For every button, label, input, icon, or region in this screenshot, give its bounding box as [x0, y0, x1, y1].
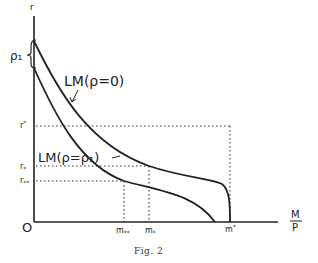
figure-caption: Fig. 2 [134, 246, 163, 256]
x-axis-label-denominator: P [292, 222, 298, 233]
m-double-star-sub-label: m** [116, 226, 130, 236]
lm-rho-rho1-label: LM(ρ=ρ₁) [38, 150, 99, 165]
m-star-sup-label: m* [225, 223, 236, 234]
rho1-label: ρ₁ [10, 49, 23, 63]
lm-rho-0-arrow [70, 90, 78, 102]
m-star-sub-label: m* [145, 226, 156, 236]
lm-rho-rho1-arrow [112, 156, 120, 158]
lm-rho-0-label: LM(ρ=0) [64, 73, 124, 89]
is-lm-diagram: ρ₁ LM(ρ=0) LM(ρ=ρ₁) r O M P r* r* r** m*… [0, 0, 318, 263]
r-star-sup-label: r* [20, 119, 26, 130]
origin-label: O [22, 220, 32, 235]
r-star-sub-label: r* [20, 162, 26, 172]
y-axis-label: r [30, 2, 34, 12]
lm-rho-0-curve [34, 41, 230, 222]
x-axis-label-numerator: M [291, 209, 300, 220]
r-double-star-sub-label: r** [20, 176, 29, 186]
